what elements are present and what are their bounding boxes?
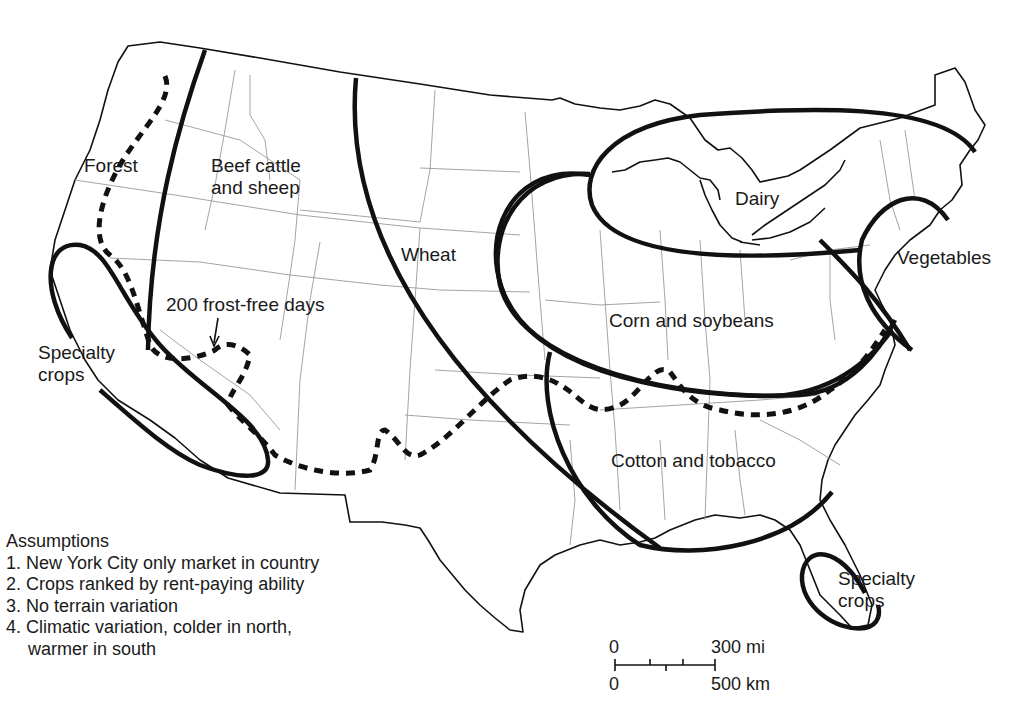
label-cotton-tobacco: Cotton and tobacco (611, 450, 776, 472)
corn-soybeans-outer (498, 174, 892, 396)
assumptions-block: Assumptions 1. New York City only market… (6, 531, 319, 660)
assumption-3: 3. No terrain variation (6, 596, 319, 618)
label-vegetables: Vegetables (897, 247, 991, 269)
label-specialty-crops-west: Specialty crops (38, 342, 115, 386)
assumption-4: 4. Climatic variation, colder in north, (6, 617, 319, 639)
label-beef-cattle-sheep: Beef cattle and sheep (211, 155, 301, 199)
label-dairy: Dairy (735, 188, 779, 210)
assumptions-title: Assumptions (6, 531, 319, 553)
assumption-4-cont: warmer in south (6, 639, 319, 661)
label-wheat: Wheat (401, 244, 456, 266)
assumption-1: 1. New York City only market in country (6, 553, 319, 575)
label-specialty-crops-florida: Specialty crops (838, 568, 915, 612)
label-corn-soybeans: Corn and soybeans (609, 310, 774, 332)
scale-top-left: 0 (609, 637, 619, 657)
scale-bar-graphic (615, 659, 715, 671)
frost-free-line (99, 76, 885, 473)
vegetables-boundary (859, 198, 948, 350)
scale-top-right: 300 mi (711, 637, 765, 657)
scale-bottom-right: 500 km (711, 674, 770, 694)
scale-bottom-left: 0 (609, 674, 619, 694)
great-lakes (612, 158, 845, 245)
label-frost-free-days: 200 frost-free days (166, 294, 324, 316)
assumption-2: 2. Crops ranked by rent-paying ability (6, 574, 319, 596)
label-forest: Forest (84, 155, 138, 177)
